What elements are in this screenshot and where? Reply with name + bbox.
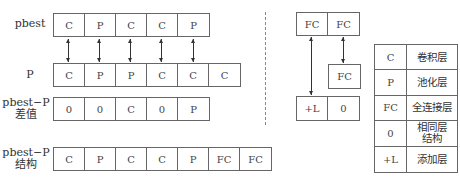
- legend-value: 池化层: [407, 70, 457, 94]
- layer-cell: 0: [147, 98, 178, 120]
- layer-cell: FC: [328, 13, 359, 35]
- legend-value: 卷积层: [407, 45, 457, 69]
- legend-row: C 卷积层: [375, 45, 457, 70]
- layer-cell: FC: [329, 65, 360, 88]
- double-arrow-icon: [130, 39, 131, 62]
- layer-cell: P: [178, 98, 209, 120]
- layer-cell: 0: [85, 98, 116, 120]
- row-label-pbest: pbest: [10, 18, 50, 30]
- layer-cell: P: [85, 148, 116, 170]
- double-arrow-icon: [343, 37, 344, 63]
- layer-cell: +L: [297, 97, 328, 120]
- legend-value: 全连接层: [407, 96, 457, 120]
- legend-row: P 池化层: [375, 70, 457, 95]
- layer-cell: C: [209, 64, 240, 86]
- layer-cell: P: [85, 64, 116, 86]
- section-divider: [265, 12, 266, 125]
- legend-key: FC: [375, 96, 407, 120]
- layer-cell: C: [178, 64, 209, 86]
- double-arrow-icon: [311, 37, 312, 95]
- legend-row: 0 相同层 结构: [375, 121, 457, 146]
- layer-cell: C: [147, 148, 178, 170]
- layer-cell: C: [116, 14, 147, 36]
- legend-row: FC 全连接层: [375, 96, 457, 121]
- legend-key: C: [375, 45, 407, 69]
- layer-cell: C: [54, 64, 85, 86]
- layer-cell: P: [85, 14, 116, 36]
- right-middle-box: FC: [328, 64, 361, 89]
- layer-cell: C: [54, 148, 85, 170]
- legend-value: 相同层 结构: [407, 121, 457, 145]
- double-arrow-icon: [193, 39, 194, 62]
- layer-cell: P: [178, 148, 209, 170]
- diff-row: 0 0 C 0 P: [53, 97, 210, 121]
- row-label-diff: pbest−P 差值: [2, 97, 50, 121]
- double-arrow-icon: [99, 39, 100, 62]
- right-top-row: FC FC: [296, 12, 360, 36]
- double-arrow-icon: [68, 39, 69, 62]
- row-label-structure-line2: 结构: [2, 159, 50, 171]
- row-label-p: P: [10, 69, 50, 81]
- p-row: C P P C C C: [53, 63, 241, 87]
- legend-value: 添加层: [407, 147, 457, 172]
- layer-cell: FC: [240, 148, 271, 170]
- legend-key: P: [375, 70, 407, 94]
- row-label-structure: pbest−P 结构: [2, 147, 50, 171]
- pbest-row: C P C C P: [53, 13, 210, 37]
- layer-cell: C: [116, 148, 147, 170]
- layer-cell: FC: [297, 13, 328, 35]
- legend-key: 0: [375, 121, 407, 145]
- layer-cell: C: [147, 14, 178, 36]
- layer-cell: 0: [328, 97, 359, 120]
- double-arrow-icon: [161, 39, 162, 62]
- legend-key: +L: [375, 147, 407, 172]
- layer-cell: FC: [209, 148, 240, 170]
- layer-cell: C: [116, 98, 147, 120]
- row-label-diff-line2: 差值: [2, 109, 50, 121]
- structure-row: C P C C P FC FC: [53, 147, 272, 171]
- layer-cell: P: [116, 64, 147, 86]
- legend-value-line2: 结构: [422, 133, 442, 144]
- right-bottom-row: +L 0: [296, 96, 360, 121]
- layer-cell: C: [147, 64, 178, 86]
- layer-cell: C: [54, 14, 85, 36]
- layer-cell: P: [178, 14, 209, 36]
- legend-table: C 卷积层 P 池化层 FC 全连接层 0 相同层 结构 +L 添加层: [374, 44, 458, 173]
- legend-row: +L 添加层: [375, 147, 457, 172]
- layer-cell: 0: [54, 98, 85, 120]
